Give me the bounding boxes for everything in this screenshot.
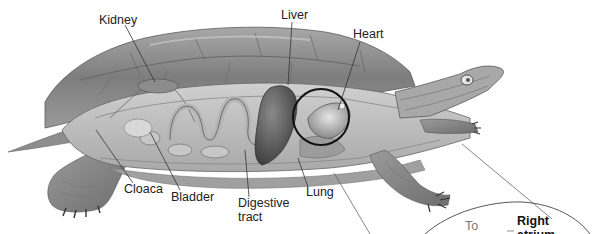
inset-circle (425, 202, 590, 234)
label-heart: Heart (353, 27, 384, 41)
label-lung: Lung (306, 185, 334, 199)
turtle-anatomy-diagram: Kidney Liver Heart Cloaca Bladder Digest… (0, 0, 605, 234)
front-limb-lower (370, 150, 450, 212)
label-liver: Liver (281, 8, 308, 22)
inset-label-atrium: atrium (517, 228, 555, 234)
bladder-organ (124, 119, 152, 137)
label-digestive-tract: Digestive tract (238, 196, 289, 224)
label-kidney: Kidney (99, 13, 137, 27)
label-digestive-line1: Digestive (238, 196, 289, 210)
inset-label-right-atrium: Right atrium (517, 214, 555, 234)
head-neck (395, 66, 503, 118)
label-digestive-line2: tract (238, 210, 289, 224)
inset-label-right: Right (517, 214, 555, 228)
turtle-illustration (0, 0, 605, 234)
label-bladder: Bladder (171, 190, 214, 204)
inset-label-to: To (465, 219, 478, 233)
label-cloaca: Cloaca (124, 182, 163, 196)
front-limb-upper (420, 119, 481, 134)
